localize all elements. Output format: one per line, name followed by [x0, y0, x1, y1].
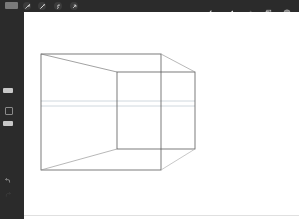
layers-icon[interactable] [264, 2, 272, 10]
brush-icon[interactable] [205, 2, 213, 10]
gallery-button[interactable] [5, 2, 18, 9]
eraser-icon[interactable] [245, 2, 253, 10]
undo-icon[interactable] [4, 170, 12, 178]
opacity-slider[interactable] [3, 121, 13, 126]
transform-arrow-icon[interactable] [70, 2, 78, 10]
perspective-box-drawing [24, 12, 299, 215]
actions-wrench-icon[interactable] [23, 2, 31, 10]
top-toolbar [0, 0, 299, 12]
adjustments-wand-icon[interactable] [38, 2, 46, 10]
left-sidebar [0, 12, 24, 219]
color-swatch-icon[interactable] [283, 2, 291, 10]
brush-size-slider[interactable] [3, 88, 13, 93]
drawing-canvas[interactable] [24, 12, 299, 216]
box-edge [161, 149, 195, 170]
square-modify-icon[interactable] [5, 107, 13, 115]
smudge-icon[interactable] [226, 2, 234, 10]
box-back-face [41, 54, 161, 170]
selection-s-icon[interactable] [54, 2, 62, 10]
box-edge [41, 149, 117, 170]
redo-icon[interactable] [4, 184, 12, 192]
box-edge [41, 54, 117, 72]
box-edge [161, 54, 195, 72]
box-front-face [117, 72, 195, 149]
